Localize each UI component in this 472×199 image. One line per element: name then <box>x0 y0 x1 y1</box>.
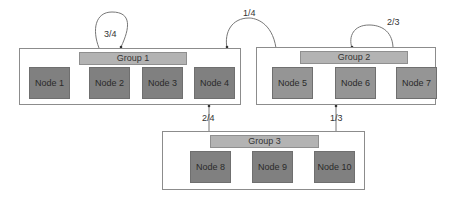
edge-label-3-4: 3/4 <box>104 29 117 39</box>
edge-label-2-4: 2/4 <box>202 113 215 123</box>
node-5[interactable]: Node 5 <box>272 67 313 99</box>
edge-label-2-3: 2/3 <box>387 17 400 27</box>
node-6[interactable]: Node 6 <box>335 67 376 99</box>
node-7[interactable]: Node 7 <box>396 67 437 99</box>
node-10[interactable]: Node 10 <box>314 151 355 183</box>
edge-group2-self <box>351 25 393 48</box>
edge-label-1-3: 1/3 <box>330 113 343 123</box>
group2-label: Group 2 <box>300 51 408 64</box>
node-4[interactable]: Node 4 <box>194 67 235 99</box>
group3-container: Group 3 Node 8 Node 9 Node 10 <box>162 131 365 190</box>
node-2[interactable]: Node 2 <box>89 67 130 99</box>
group3-label: Group 3 <box>210 135 319 148</box>
edge-label-1-4: 1/4 <box>243 8 256 18</box>
group1-container: Group 1 Node 1 Node 2 Node 3 Node 4 <box>19 48 241 105</box>
node-1[interactable]: Node 1 <box>29 67 70 99</box>
edge-group2-group1 <box>226 18 276 48</box>
node-3[interactable]: Node 3 <box>142 67 183 99</box>
group1-label: Group 1 <box>79 52 187 65</box>
node-9[interactable]: Node 9 <box>252 151 293 183</box>
node-8[interactable]: Node 8 <box>190 151 231 183</box>
group2-container: Group 2 Node 5 Node 6 Node 7 <box>256 47 436 105</box>
